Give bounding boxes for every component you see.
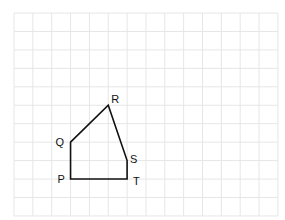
vertex-label-q: Q <box>56 136 65 148</box>
vertex-label-s: S <box>130 153 137 165</box>
vertex-label-r: R <box>111 93 119 105</box>
vertex-label-p: P <box>58 173 65 185</box>
grid-diagram: PQRST <box>0 0 285 220</box>
vertex-label-t: T <box>133 175 140 187</box>
grid-lines <box>14 13 278 216</box>
